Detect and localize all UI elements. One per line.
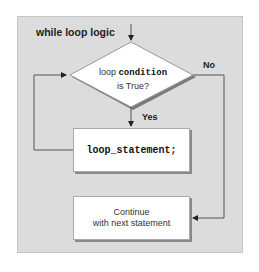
continue-line2: with next statement (93, 218, 171, 229)
decision-keyword: condition (118, 68, 167, 78)
diagram-title: while loop logic (36, 26, 115, 38)
loop-statement-box: loop_statement; (73, 128, 190, 172)
continue-box: Continue with next statement (73, 196, 190, 240)
decision-prefix: loop (99, 67, 119, 77)
continue-line1: Continue (93, 207, 171, 218)
loop-statement-text: loop_statement; (86, 145, 176, 156)
yes-label: Yes (142, 112, 158, 122)
no-label: No (203, 60, 215, 70)
decision-suffix: is True? (117, 81, 149, 91)
decision-text: loop condition is True? (80, 66, 186, 93)
